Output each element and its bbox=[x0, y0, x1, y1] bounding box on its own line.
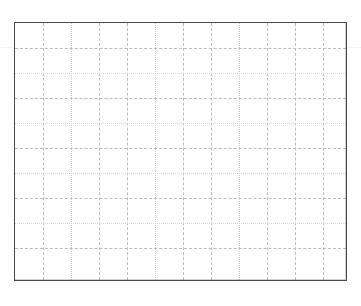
gridline-vertical bbox=[127, 23, 128, 280]
gridline-horizontal bbox=[15, 98, 346, 99]
gridline-horizontal bbox=[15, 248, 346, 249]
gridline-vertical bbox=[99, 23, 100, 280]
gridline-vertical bbox=[267, 23, 268, 280]
gridline-horizontal bbox=[15, 148, 346, 149]
gridline-vertical bbox=[239, 23, 240, 280]
gridline-vertical bbox=[183, 23, 184, 280]
gridline-horizontal bbox=[15, 123, 346, 124]
gridline-vertical bbox=[71, 23, 72, 280]
gridline-vertical bbox=[155, 23, 156, 280]
gridline-horizontal bbox=[15, 48, 346, 49]
horizontal-gridlines bbox=[15, 23, 346, 280]
plot-area-frame bbox=[14, 22, 347, 281]
gridline-horizontal bbox=[15, 198, 346, 199]
gridline-horizontal bbox=[15, 223, 346, 224]
gridline-vertical bbox=[295, 23, 296, 280]
vertical-gridlines bbox=[15, 23, 346, 280]
gridline-vertical bbox=[43, 23, 44, 280]
chart-canvas bbox=[0, 0, 361, 306]
gridline-vertical bbox=[323, 23, 324, 280]
gridline-horizontal bbox=[15, 173, 346, 174]
gridline-vertical bbox=[211, 23, 212, 280]
gridline-horizontal bbox=[15, 73, 346, 74]
